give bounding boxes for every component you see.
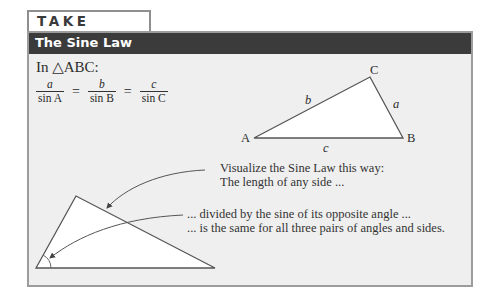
vertex-c-label: C xyxy=(370,63,378,78)
diagram-canvas xyxy=(0,0,496,298)
side-c-label: c xyxy=(323,141,329,156)
visualize-line3: ... divided by the sine of its opposite … xyxy=(187,207,411,221)
triangle-abc xyxy=(254,77,403,138)
arrow-to-side xyxy=(107,170,205,208)
side-b-label: b xyxy=(305,93,311,108)
side-a-label: a xyxy=(393,97,399,112)
visualize-line4: ... is the same for all three pairs of a… xyxy=(187,221,445,235)
visualize-line1: Visualize the Sine Law this way: xyxy=(220,161,384,175)
vertex-b-label: B xyxy=(407,131,415,146)
vertex-a-label: A xyxy=(241,131,250,146)
visualize-line2: The length of any side ... xyxy=(220,175,344,189)
